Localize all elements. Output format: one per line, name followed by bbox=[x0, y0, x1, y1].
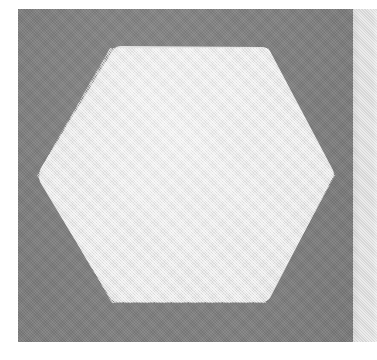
strip-scan-texture bbox=[353, 9, 377, 342]
figure-canvas: Hexagon on gray background A light gray … bbox=[0, 0, 377, 360]
light-vertical-strip bbox=[353, 9, 377, 342]
panel-scan-texture bbox=[18, 9, 353, 342]
gray-background-panel bbox=[18, 9, 353, 342]
panel-shading-overlay bbox=[18, 9, 353, 342]
strip-shading-overlay bbox=[353, 9, 377, 342]
